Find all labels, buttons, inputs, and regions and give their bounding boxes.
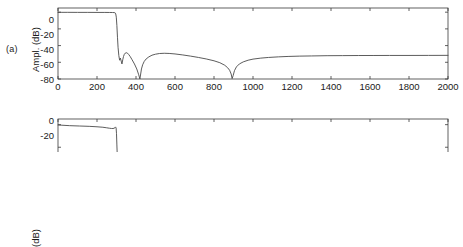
- panel-b-plot-area: [0, 95, 454, 152]
- panel-b-y-axis-label: (dB): [30, 229, 41, 247]
- panel-b-cropped: (dB) 0 -20: [0, 95, 454, 152]
- panel-a: (a) Ampl. (dB) 0 -20 -40 -60 -80 0 200 4…: [0, 0, 454, 95]
- panel-a-plot-area: [0, 0, 454, 95]
